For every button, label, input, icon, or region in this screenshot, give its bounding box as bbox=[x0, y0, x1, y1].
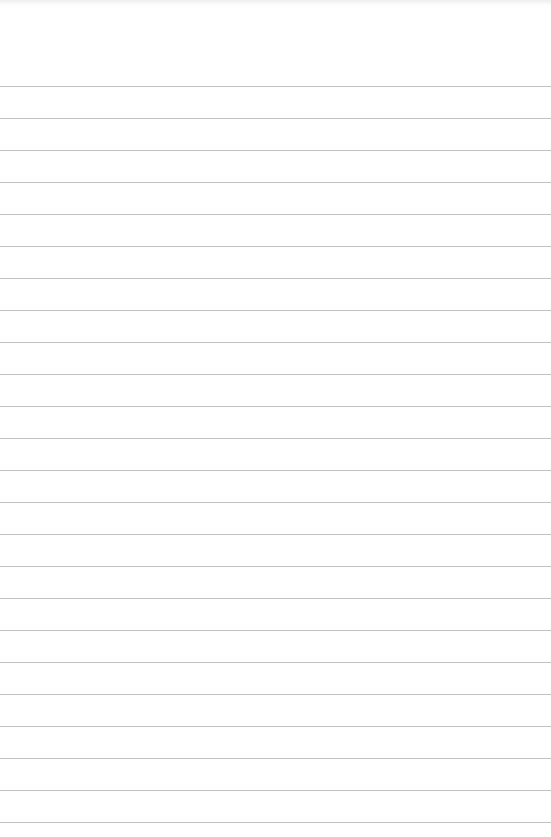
ruled-line bbox=[0, 726, 551, 727]
ruled-line bbox=[0, 790, 551, 791]
top-edge-shadow bbox=[0, 0, 551, 6]
ruled-line bbox=[0, 86, 551, 87]
ruled-line bbox=[0, 630, 551, 631]
ruled-line bbox=[0, 310, 551, 311]
ruled-line bbox=[0, 822, 551, 823]
ruled-line bbox=[0, 534, 551, 535]
ruled-line bbox=[0, 182, 551, 183]
ruled-line bbox=[0, 758, 551, 759]
ruled-line bbox=[0, 502, 551, 503]
ruled-line bbox=[0, 150, 551, 151]
ruled-line bbox=[0, 374, 551, 375]
ruled-line bbox=[0, 342, 551, 343]
ruled-line bbox=[0, 406, 551, 407]
ruled-line bbox=[0, 278, 551, 279]
ruled-line bbox=[0, 694, 551, 695]
ruled-line bbox=[0, 214, 551, 215]
ruled-line bbox=[0, 438, 551, 439]
ruled-line bbox=[0, 662, 551, 663]
ruled-line bbox=[0, 598, 551, 599]
ruled-line bbox=[0, 246, 551, 247]
ruled-line bbox=[0, 566, 551, 567]
ruled-line bbox=[0, 118, 551, 119]
lined-paper-sheet bbox=[0, 0, 551, 837]
ruled-line bbox=[0, 470, 551, 471]
